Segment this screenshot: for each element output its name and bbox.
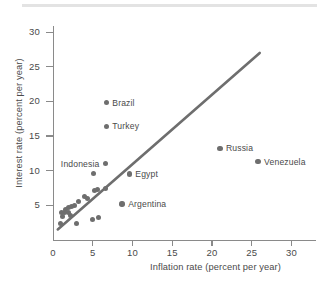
x-tick-label: 10 [121,247,145,258]
y-tick-mark [46,170,53,171]
x-tick-mark [172,240,173,246]
y-tick-mark [46,66,53,67]
point-label-egypt: Egypt [135,170,158,179]
data-point [68,213,73,218]
y-tick-mark [46,32,53,33]
data-point [60,214,65,219]
data-point [96,215,101,220]
data-point [85,196,90,201]
data-point-russia [217,146,222,151]
point-label-venezuela: Venezuela [264,157,306,166]
data-point-egypt [127,171,132,176]
x-tick-label: 0 [41,247,65,258]
data-point-argentina [119,201,124,206]
data-point-turkey [104,124,109,129]
x-tick-mark [211,240,212,246]
data-point-venezuela [255,159,260,164]
y-axis-line [53,26,54,240]
y-tick-mark [46,205,53,206]
y-tick-mark [46,135,53,136]
point-label-argentina: Argentina [128,199,166,208]
point-label-russia: Russia [226,144,253,153]
x-tick-label: 5 [81,247,105,258]
x-tick-label: 20 [200,247,224,258]
x-tick-label: 15 [160,247,184,258]
x-tick-mark [132,240,133,246]
data-point [90,217,95,222]
x-tick-mark [251,240,252,246]
point-label-turkey: Turkey [112,122,139,131]
data-point-indonesia [103,161,108,166]
plot-area: 51015202530 051015202530 BrazilTurkeyRus… [0,0,325,288]
y-tick-label: 30 [14,27,40,37]
x-axis-title: Inflation rate (percent per year) [150,262,281,272]
x-tick-mark [291,240,292,246]
data-point [91,171,96,176]
trendline [0,0,325,288]
point-label-brazil: Brazil [112,98,134,107]
y-tick-mark [46,101,53,102]
data-point [103,186,108,191]
x-tick-mark [92,240,93,246]
data-point [58,221,63,226]
y-axis-title: Interest rate (percent per year) [14,38,24,208]
point-label-indonesia: Indonesia [61,159,100,168]
data-point [95,187,100,192]
data-point [74,221,79,226]
data-point-brazil [104,100,109,105]
x-tick-label: 30 [280,247,304,258]
x-tick-label: 25 [240,247,264,258]
scatter-plot-figure: 51015202530 051015202530 BrazilTurkeyRus… [0,0,325,288]
